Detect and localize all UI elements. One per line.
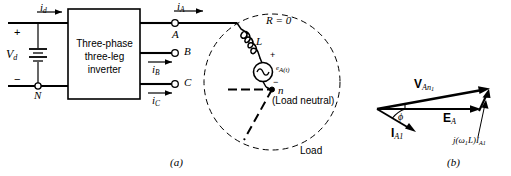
phasor-ea-subscript: A	[451, 117, 456, 126]
phase-b-current-arrow-head	[165, 59, 172, 64]
load-boundary-circle	[204, 14, 340, 150]
source-plus-sign: +	[270, 51, 275, 60]
inductor-label: L	[256, 36, 262, 47]
terminal-b-marker	[172, 50, 179, 57]
phasor-ea-symbol: E	[443, 111, 451, 125]
inverter-label-line1: Three-phase	[76, 38, 133, 51]
phasor-ia1-subscript: A1	[394, 132, 403, 141]
terminal-b-label: B	[184, 46, 191, 57]
phase-c-current-arrow-head	[165, 90, 172, 95]
ac-source-label: eA(t)	[276, 62, 290, 74]
dc-current-label: id	[40, 2, 47, 15]
phase-a-current-subscript: A	[180, 5, 185, 14]
terminal-c-label: C	[184, 77, 191, 88]
load-boundary-label: Load	[300, 146, 322, 156]
phase-a-current-label: iA	[177, 1, 185, 14]
inverter-label-line3: inverter	[76, 64, 133, 77]
phase-angle-label: ϕ	[398, 112, 403, 122]
phasor-ea-label: EA	[443, 112, 456, 126]
load-resistance-label: R = 0	[266, 15, 291, 26]
phasor-van1-shaft	[377, 90, 482, 109]
ac-source-subscript: A(t)	[279, 66, 290, 73]
dc-negative-sign: −	[14, 74, 20, 85]
terminal-a-label: A	[172, 29, 179, 40]
dc-current-arrow-head	[55, 9, 62, 14]
load-neutral-note: (Load neutral)	[272, 96, 334, 106]
reactance-drop-mid: L)I	[468, 135, 479, 145]
load-phase-c-branch-dashed	[244, 90, 272, 141]
phasor-van1-label: VAn1	[414, 78, 434, 93]
dc-current-subscript: d	[43, 6, 47, 15]
phasor-van1-subscript2: 1	[431, 85, 434, 92]
figure-three-phase-inverter-with-phasor-diagram: + − Vd N id Three-phase three-leg invert…	[0, 0, 511, 176]
phase-b-current-subscript: B	[155, 68, 160, 77]
inverter-block-label: Three-phase three-leg inverter	[76, 38, 133, 76]
phasor-ia1-arrowhead	[405, 123, 416, 132]
dc-voltage-label: Vd	[6, 48, 17, 62]
phase-c-current-subscript: C	[155, 99, 160, 108]
subfigure-a-caption: (a)	[170, 157, 183, 168]
terminal-c-marker	[172, 81, 179, 88]
terminal-a-marker	[172, 20, 179, 27]
phase-a-current-arrow-head	[196, 8, 203, 13]
dc-neutral-node-label: N	[34, 90, 41, 101]
dc-voltage-subscript: d	[13, 53, 17, 62]
phase-c-current-label: iC	[152, 95, 160, 108]
phasor-van1-symbol: V	[414, 77, 422, 91]
reactance-drop-prefix: j(ω	[453, 135, 465, 145]
inverter-label-line2: three-leg	[76, 51, 133, 64]
reactance-drop-current-subscript: A1	[479, 140, 486, 146]
phasor-reactance-drop-label: j(ω1L)IA1	[453, 136, 486, 146]
phasor-ia1-label: IA1	[391, 127, 403, 141]
dc-positive-sign: +	[14, 27, 20, 38]
figure-vector-graphics	[0, 0, 511, 176]
source-to-neutral-lead	[263, 82, 266, 88]
phase-b-current-label: iB	[152, 64, 160, 77]
phasor-van1-subscript: An	[422, 83, 431, 92]
subfigure-b-caption: (b)	[447, 157, 460, 168]
